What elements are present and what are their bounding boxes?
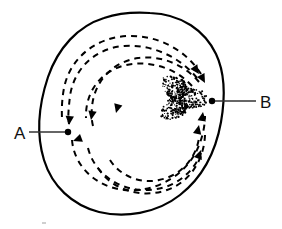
stipple-dot	[178, 96, 179, 97]
stipple-dot	[186, 87, 188, 89]
stipple-dot	[167, 85, 169, 87]
stipple-dot	[196, 103, 198, 105]
stipple-dot	[172, 112, 173, 113]
stipple-dot	[181, 83, 183, 85]
stipple-dot	[194, 93, 196, 95]
stipple-dot	[188, 96, 189, 97]
stipple-dot	[200, 102, 202, 104]
stipple-dot	[195, 106, 197, 108]
stipple-dot	[188, 97, 189, 98]
stipple-dot	[167, 115, 169, 117]
stipple-dot	[167, 100, 169, 102]
stipple-dot	[169, 92, 170, 93]
arrowhead-top-right-in	[190, 64, 202, 76]
stipple-dot	[176, 116, 177, 117]
stipple-dot	[174, 95, 175, 96]
stipple-dot	[172, 115, 173, 116]
stipple-dot	[178, 100, 180, 102]
faint-corner-mark	[42, 222, 46, 224]
stipple-dot	[183, 88, 185, 90]
stipple-dot	[177, 114, 179, 116]
stipple-dot	[172, 96, 173, 97]
stipple-dot	[165, 116, 166, 117]
stipple-dot	[185, 101, 186, 102]
stipple-dot	[183, 92, 185, 94]
stipple-dot	[176, 78, 177, 79]
arrowhead-right-mid-up	[193, 124, 203, 135]
stipple-dot	[163, 106, 165, 108]
stipple-dot	[195, 98, 197, 100]
stipple-dot	[172, 99, 174, 101]
stipple-dot	[188, 92, 190, 94]
stipple-dot	[199, 92, 201, 94]
stipple-dot	[189, 106, 191, 108]
dashed-spiral-arcs	[62, 36, 205, 194]
stipple-dot	[201, 96, 203, 98]
stipple-dot	[181, 79, 183, 81]
stipple-dot	[188, 94, 189, 95]
stipple-dot	[184, 94, 186, 96]
stipple-dot	[176, 87, 178, 89]
stipple-dot	[168, 80, 170, 82]
stipple-dot	[187, 106, 189, 108]
stipple-dot	[177, 112, 179, 114]
stipple-dot	[174, 92, 175, 93]
stipple-dot	[177, 84, 179, 86]
stipple-dot	[197, 93, 198, 94]
stipple-dot	[166, 109, 167, 110]
stipple-dot	[164, 86, 165, 87]
stipple-dot	[191, 90, 193, 92]
stipple-dot	[192, 107, 193, 108]
stipple-dot	[173, 77, 175, 79]
stipple-dot	[184, 110, 186, 112]
stipple-dot	[182, 108, 184, 110]
stipple-dot	[167, 87, 168, 88]
stipple-dot	[161, 110, 163, 112]
stipple-dot	[198, 91, 199, 92]
stipple-dot	[170, 95, 172, 97]
stipple-dot	[171, 113, 173, 115]
stipple-dot	[162, 114, 164, 116]
stipple-dot	[195, 89, 197, 91]
stipple-dot	[171, 103, 173, 105]
point-marker-a	[65, 129, 71, 135]
stipple-dot	[188, 101, 190, 103]
inner-dashed-spiral-lower	[110, 138, 199, 181]
stipple-dot	[166, 76, 168, 78]
stipple-dot	[197, 99, 199, 101]
stipple-dot	[181, 104, 183, 106]
arrowhead-left-outer-down	[65, 116, 74, 126]
stipple-dot	[185, 87, 186, 88]
stipple-dot	[184, 84, 186, 86]
stipple-dot	[174, 108, 175, 109]
stipple-dot	[174, 104, 175, 105]
stipple-dot	[167, 91, 169, 93]
stipple-dot	[180, 91, 182, 93]
stipple-dot	[179, 87, 181, 89]
stipple-dot	[184, 106, 185, 107]
stipple-dot	[176, 93, 178, 95]
stipple-dot	[178, 88, 179, 89]
stipple-dot	[173, 99, 175, 101]
stipple-dot	[183, 99, 185, 101]
stipple-dot	[199, 104, 201, 106]
stipple-dot	[201, 94, 202, 95]
stipple-dot	[203, 99, 205, 101]
stipple-dot	[181, 103, 182, 104]
stipple-dot	[184, 98, 186, 100]
stipple-dot	[171, 86, 173, 88]
stipple-dot	[162, 86, 163, 87]
stipple-dot	[172, 97, 173, 98]
stipple-dot	[200, 106, 201, 107]
stipple-dot	[177, 102, 178, 103]
stipple-dot	[183, 94, 185, 96]
stipple-dot	[191, 95, 193, 97]
stipple-dot	[180, 89, 182, 91]
stipple-dot	[175, 106, 176, 107]
stipple-dot	[165, 84, 166, 85]
stipple-dot	[163, 77, 164, 78]
stipple-dot	[170, 105, 171, 106]
stipple-dot	[203, 104, 205, 106]
stipple-dot	[173, 102, 174, 103]
stipple-dot	[176, 113, 177, 114]
